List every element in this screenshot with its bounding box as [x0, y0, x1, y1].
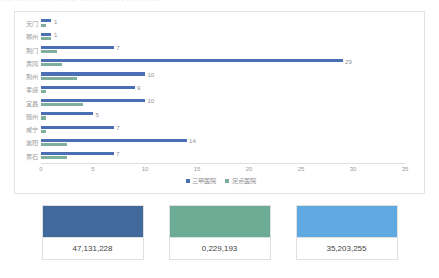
chart-bar-group: 7	[41, 123, 405, 136]
chart-bar-secondary[interactable]	[41, 50, 57, 53]
chart-legend-swatch	[225, 179, 229, 183]
chart-legend-label: 定点医院	[232, 176, 256, 185]
chart-bar-primary[interactable]: 14	[41, 139, 187, 142]
swatch-green-value: 0,229,193	[170, 237, 270, 259]
chart-bar-value-label: 14	[187, 138, 196, 145]
chart-bar-value-label: 10	[145, 72, 154, 79]
swatch-light-blue-color	[297, 206, 397, 237]
swatch-green-color	[170, 206, 270, 237]
chart-bar-group: 5	[41, 110, 405, 123]
chart-category-row: 黄石7	[41, 150, 405, 163]
chart-legend: 三甲医院定点医院	[15, 176, 426, 185]
chart-bar-primary[interactable]: 7	[41, 152, 114, 155]
chart-category-row: 随州5	[41, 110, 405, 123]
swatch-light-blue-value: 35,203,255	[297, 237, 397, 259]
chart-bar-secondary[interactable]	[41, 143, 67, 146]
chart-x-tick-label: 15	[194, 166, 201, 172]
chart-bar-secondary[interactable]	[41, 116, 46, 119]
chart-legend-item[interactable]: 定点医院	[225, 176, 256, 185]
chart-legend-swatch	[186, 179, 190, 183]
swatch-dark-blue-color	[43, 206, 143, 237]
chart-category-label: 黄冈	[26, 58, 38, 69]
chart-bar-primary[interactable]: 1	[41, 19, 51, 22]
chart-category-label: 黄石	[26, 151, 38, 162]
chart-bar-secondary[interactable]	[41, 103, 83, 106]
chart-x-axis: 05101520253035	[41, 163, 405, 176]
chart-category-row: 黄冈29	[41, 57, 405, 70]
chart-bar-secondary[interactable]	[41, 24, 46, 27]
chart-bar-group: 14	[41, 136, 405, 149]
top-toolbar-strip: · ··· ···· ··· ··· ···· ···· ···· ·· ···…	[0, 0, 439, 9]
chart-bar-primary[interactable]: 10	[41, 99, 145, 102]
chart-card: 天门1鄂州1荆门7黄冈29荆州10孝感9宜昌10随州5咸宁7襄阳14黄石7 05…	[14, 11, 425, 194]
chart-bar-secondary[interactable]	[41, 156, 67, 159]
chart-bar-group: 10	[41, 70, 405, 83]
top-strip-ghost-text: · ··· ···· ··· ··· ···· ···· ···· ·· ···…	[0, 0, 160, 4]
chart-category-row: 鄂州1	[41, 30, 405, 43]
chart-bar-secondary[interactable]	[41, 63, 62, 66]
swatch-light-blue-card[interactable]: 35,203,255	[296, 205, 398, 260]
chart-bar-secondary[interactable]	[41, 77, 77, 80]
chart-category-label: 天门	[26, 18, 38, 29]
chart-category-row: 襄阳14	[41, 136, 405, 149]
chart-bar-value-label: 7	[114, 151, 120, 158]
chart-bar-secondary[interactable]	[41, 37, 51, 40]
chart-category-row: 孝感9	[41, 83, 405, 96]
chart-category-label: 随州	[26, 111, 38, 122]
chart-x-tick-label: 30	[350, 166, 357, 172]
chart-category-label: 咸宁	[26, 124, 38, 135]
chart-bar-primary[interactable]: 7	[41, 126, 114, 129]
chart-bar-group: 7	[41, 150, 405, 163]
chart-category-row: 咸宁7	[41, 123, 405, 136]
chart-bar-group: 1	[41, 17, 405, 30]
chart-bar-primary[interactable]: 10	[41, 72, 145, 75]
chart-bar-primary[interactable]: 7	[41, 46, 114, 49]
chart-bar-group: 10	[41, 97, 405, 110]
swatch-dark-blue-value: 47,131,228	[43, 237, 143, 259]
chart-x-tick-label: 25	[298, 166, 305, 172]
chart-bar-value-label: 1	[51, 19, 57, 26]
chart-plot-area: 天门1鄂州1荆门7黄冈29荆州10孝感9宜昌10随州5咸宁7襄阳14黄石7	[41, 17, 405, 163]
chart-bar-group: 9	[41, 83, 405, 96]
chart-x-tick-label: 20	[246, 166, 253, 172]
chart-bar-group: 7	[41, 44, 405, 57]
chart-bar-secondary[interactable]	[41, 130, 46, 133]
chart-category-row: 天门1	[41, 17, 405, 30]
chart-category-label: 孝感	[26, 84, 38, 95]
chart-x-tick-label: 10	[142, 166, 149, 172]
chart-bar-value-label: 1	[51, 32, 57, 39]
chart-legend-label: 三甲医院	[192, 176, 216, 185]
chart-bar-secondary[interactable]	[41, 90, 46, 93]
chart-bar-primary[interactable]: 29	[41, 59, 343, 62]
chart-bar-value-label: 7	[114, 125, 120, 132]
chart-x-tick-label: 35	[402, 166, 409, 172]
chart-category-label: 宜昌	[26, 98, 38, 109]
chart-bar-value-label: 7	[114, 45, 120, 52]
chart-bar-value-label: 29	[343, 59, 352, 66]
chart-category-row: 荆门7	[41, 44, 405, 57]
chart-category-label: 鄂州	[26, 31, 38, 42]
chart-category-row: 宜昌10	[41, 97, 405, 110]
chart-category-row: 荆州10	[41, 70, 405, 83]
color-swatch-row: 47,131,2280,229,19335,203,255	[0, 205, 439, 260]
chart-bar-value-label: 9	[135, 85, 141, 92]
chart-bar-primary[interactable]: 1	[41, 33, 51, 36]
chart-category-label: 襄阳	[26, 137, 38, 148]
chart-bar-group: 29	[41, 57, 405, 70]
chart-bar-value-label: 10	[145, 98, 154, 105]
chart-bar-group: 1	[41, 30, 405, 43]
chart-category-label: 荆州	[26, 71, 38, 82]
chart-x-tick-label: 0	[39, 166, 42, 172]
chart-bar-primary[interactable]: 5	[41, 112, 93, 115]
chart-bar-primary[interactable]: 9	[41, 86, 135, 89]
chart-category-label: 荆门	[26, 45, 38, 56]
chart-legend-item[interactable]: 三甲医院	[186, 176, 217, 185]
chart-bar-value-label: 5	[93, 112, 99, 119]
swatch-green-card[interactable]: 0,229,193	[169, 205, 271, 260]
swatch-dark-blue-card[interactable]: 47,131,228	[42, 205, 144, 260]
chart-x-tick-label: 5	[91, 166, 94, 172]
